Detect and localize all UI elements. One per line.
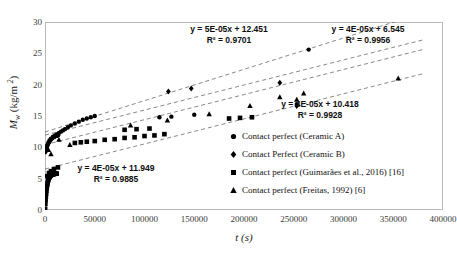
- data-point: [48, 151, 53, 156]
- data-point: [277, 80, 282, 86]
- annotation-equation-text: y = 4E-05x + 10.418: [281, 99, 359, 109]
- x-axis-tick-label: 350000: [380, 215, 407, 224]
- legend-item[interactable]: Contact perfect (Ceramic A): [228, 127, 440, 145]
- data-point: [162, 132, 167, 137]
- annotation-equation-ceramic-b: y = 4E-05x + 10.418 R² = 0.9928: [252, 99, 388, 122]
- x-axis-tick-label: 200000: [231, 215, 258, 224]
- data-point: [301, 91, 306, 96]
- data-point: [81, 118, 85, 122]
- x-axis-tick-label: 400000: [430, 215, 457, 224]
- data-point: [147, 126, 152, 131]
- data-point: [79, 140, 84, 145]
- data-point: [102, 138, 107, 143]
- data-point: [92, 139, 97, 144]
- annotation-r2-text: R² = 0.9956: [288, 35, 448, 46]
- data-point: [396, 76, 401, 81]
- legend-item[interactable]: Contact perfect (Freitas, 1992) [6]: [228, 181, 440, 199]
- data-point: [152, 133, 157, 138]
- data-point: [112, 137, 117, 142]
- legend-item-label: Contact perfect (Ceramic A): [242, 131, 344, 141]
- data-point: [306, 47, 310, 51]
- data-point: [73, 121, 77, 125]
- data-point: [192, 113, 196, 117]
- legend-item[interactable]: Contact Perfect (Ceramic B): [228, 145, 440, 163]
- circle-marker-icon: [228, 131, 239, 142]
- x-axis-tick-labels: 0500001000001500002000002500003000003500…: [0, 215, 448, 229]
- x-axis-title: t (s): [45, 231, 443, 243]
- data-point: [165, 118, 170, 123]
- y-axis-unit-exponent: 2: [6, 79, 15, 83]
- data-point: [122, 136, 127, 141]
- triangle-marker-icon: [228, 185, 239, 196]
- data-point: [56, 133, 60, 137]
- legend-item-label: Contact perfect (Freitas, 1992) [6]: [242, 185, 365, 195]
- data-point: [89, 115, 93, 119]
- data-point: [157, 115, 161, 119]
- data-point: [238, 116, 243, 121]
- x-axis-tick-label: 300000: [330, 215, 357, 224]
- diamond-marker-icon: [228, 149, 239, 160]
- annotation-r2-text: R² = 0.9928: [252, 110, 388, 121]
- y-axis-tick-label: 30: [20, 18, 42, 27]
- legend-item[interactable]: Contact perfect (Guimarães et al., 2016)…: [228, 163, 440, 181]
- y-axis-tick-label: 10: [20, 143, 42, 152]
- x-axis-tick-label: 150000: [181, 215, 208, 224]
- data-point: [142, 134, 147, 139]
- data-point: [45, 207, 47, 210]
- data-point: [77, 119, 81, 123]
- legend-item-label: Contact Perfect (Ceramic B): [242, 149, 345, 159]
- y-axis-tick-label: 0: [20, 206, 42, 215]
- square-marker-icon: [228, 167, 239, 178]
- y-axis-tick-label: 15: [20, 112, 42, 121]
- data-point: [69, 123, 73, 127]
- legend-item-label: Contact perfect (Guimarães et al., 2016)…: [242, 167, 404, 177]
- data-point: [227, 116, 232, 121]
- data-point: [134, 127, 139, 132]
- data-point: [93, 114, 97, 118]
- annotation-equation-guimaraes: y = 4E-05x + 11.949 R² = 0.9885: [52, 163, 180, 186]
- y-axis-tick-label: 25: [20, 49, 42, 58]
- x-axis-tick-label: 100000: [131, 215, 158, 224]
- data-point: [189, 85, 194, 91]
- y-axis-tick-label: 20: [20, 80, 42, 89]
- annotation-equation-text: y = 4E-05x + 11.949: [77, 163, 154, 173]
- data-point: [169, 114, 173, 118]
- chart-legend: Contact perfect (Ceramic A)Contact Perfe…: [228, 127, 440, 199]
- y-axis-tick-label: 5: [20, 174, 42, 183]
- annotation-equation-freitas: y = 4E-05x + 6.545 R² = 0.9956: [288, 24, 448, 47]
- annotation-r2-text: R² = 0.9885: [52, 174, 180, 185]
- annotation-equation-text: y = 4E-05x + 6.545: [332, 24, 405, 34]
- data-point: [67, 142, 72, 147]
- data-point: [132, 135, 137, 140]
- x-axis-tick-label: 250000: [280, 215, 307, 224]
- data-point: [45, 202, 48, 206]
- data-point: [206, 111, 211, 116]
- data-point: [84, 139, 89, 144]
- annotation-equation-text: y = 5E-05x + 12.451: [190, 24, 268, 34]
- x-axis-tick-label: 50000: [84, 215, 107, 224]
- data-point: [85, 116, 89, 120]
- x-axis-tick-label: 0: [43, 215, 48, 224]
- data-point: [122, 127, 127, 132]
- data-point: [73, 141, 78, 146]
